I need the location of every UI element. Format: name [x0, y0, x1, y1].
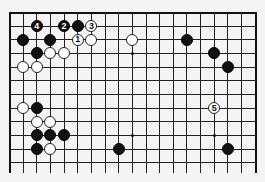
white-stone-move-5: 5: [208, 102, 220, 114]
white-stone: [44, 116, 56, 128]
white-stone: [58, 47, 70, 59]
white-stone: [31, 61, 43, 73]
black-stone: [31, 47, 43, 59]
white-stone-move-1: 1: [72, 34, 84, 46]
white-stone: [85, 34, 97, 46]
grid-horizontal-line: [9, 67, 256, 68]
black-stone: [17, 34, 29, 46]
move-number-label: 2: [62, 22, 67, 31]
go-board: 42315: [0, 0, 265, 182]
white-stone-move-3: 3: [85, 20, 97, 32]
grid-horizontal-line: [9, 26, 256, 27]
white-stone: [44, 47, 56, 59]
black-stone: [31, 143, 43, 155]
black-stone: [44, 34, 56, 46]
star-point: [213, 134, 216, 137]
black-stone: [181, 34, 193, 46]
black-stone: [58, 129, 70, 141]
white-stone: [17, 102, 29, 114]
black-stone-move-2: 2: [58, 20, 70, 32]
black-stone: [44, 129, 56, 141]
black-stone: [208, 47, 220, 59]
grid-horizontal-line: [9, 12, 256, 14]
black-stone: [222, 143, 234, 155]
white-stone: [17, 61, 29, 73]
white-stone: [31, 116, 43, 128]
black-stone: [222, 61, 234, 73]
black-stone: [31, 129, 43, 141]
white-stone: [126, 34, 138, 46]
black-stone: [72, 20, 84, 32]
white-stone: [44, 143, 56, 155]
black-stone-move-4: 4: [31, 20, 43, 32]
move-number-label: 3: [89, 22, 94, 31]
star-point: [131, 52, 134, 55]
grid-horizontal-line: [9, 94, 256, 95]
move-number-label: 1: [75, 35, 80, 44]
black-stone: [31, 102, 43, 114]
grid-horizontal-line: [9, 162, 256, 163]
black-stone: [113, 143, 125, 155]
grid-horizontal-line: [9, 80, 256, 81]
move-number-label: 4: [34, 22, 39, 31]
star-point: [131, 134, 134, 137]
move-number-label: 5: [212, 104, 217, 113]
